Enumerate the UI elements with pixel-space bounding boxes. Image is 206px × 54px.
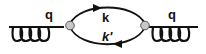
left-vertex — [66, 21, 75, 30]
right-gluon-label: q — [168, 7, 176, 22]
feynman-diagram: q k k' q — [0, 0, 206, 54]
right-vertex — [141, 21, 150, 30]
left-gluon-line — [9, 27, 64, 41]
arrow-left-icon — [113, 40, 122, 48]
left-gluon-label: q — [45, 7, 53, 22]
lower-propagator-label: k' — [102, 29, 113, 44]
right-gluon-line — [148, 27, 198, 41]
arrow-right-icon — [93, 4, 102, 12]
upper-propagator-label: k — [102, 10, 110, 25]
